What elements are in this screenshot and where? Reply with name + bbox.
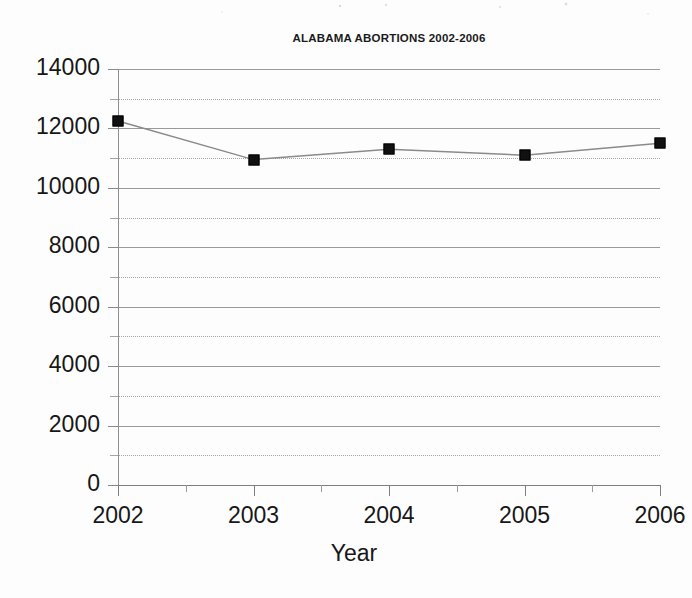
- y-axis-minor-tick: [110, 218, 118, 219]
- y-axis-major-tick: [108, 366, 118, 367]
- y-axis-minor-tick: [110, 277, 118, 278]
- gridline-minor: [118, 336, 660, 337]
- x-axis-major-tick: [254, 485, 255, 496]
- gridline-minor: [118, 99, 660, 100]
- y-axis-minor-tick: [110, 158, 118, 159]
- line-chart: ALABAMA ABORTIONS 2002-2006 020004000600…: [0, 0, 692, 598]
- x-axis-minor-tick: [457, 485, 458, 492]
- x-axis-minor-tick: [186, 485, 187, 492]
- x-axis-tick-label: 2003: [228, 502, 279, 529]
- x-axis-major-tick: [118, 485, 119, 496]
- y-axis-major-tick: [108, 485, 118, 486]
- data-point-marker: [655, 138, 666, 149]
- x-axis-major-tick: [389, 485, 390, 496]
- x-axis-major-tick: [660, 485, 661, 496]
- y-axis-major-tick: [108, 128, 118, 129]
- x-axis-minor-tick: [592, 485, 593, 492]
- y-axis-minor-tick: [110, 396, 118, 397]
- x-axis-tick-label: 2002: [92, 502, 143, 529]
- data-point-marker: [113, 116, 124, 127]
- y-axis-major-tick: [108, 426, 118, 427]
- y-axis-tick-label: 8000: [0, 232, 100, 259]
- y-axis-major-tick: [108, 188, 118, 189]
- y-axis-tick-label: 2000: [0, 411, 100, 438]
- x-axis-tick-label: 2005: [499, 502, 550, 529]
- gridline-minor: [118, 158, 660, 159]
- y-axis-line: [118, 69, 119, 489]
- y-axis-tick-label: 10000: [0, 173, 100, 200]
- gridline-major: [118, 307, 660, 308]
- y-axis-tick-label: 0: [0, 470, 100, 497]
- y-axis-tick-label: 14000: [0, 54, 100, 81]
- y-axis-major-tick: [108, 307, 118, 308]
- x-axis-major-tick: [525, 485, 526, 496]
- data-point-marker: [519, 150, 530, 161]
- gridline-minor: [118, 218, 660, 219]
- y-axis-minor-tick: [110, 455, 118, 456]
- x-axis-minor-tick: [321, 485, 322, 492]
- chart-title: ALABAMA ABORTIONS 2002-2006: [118, 32, 660, 44]
- gridline-major: [118, 366, 660, 367]
- y-axis-minor-tick: [110, 336, 118, 337]
- y-axis-minor-tick: [110, 99, 118, 100]
- y-axis-tick-label: 6000: [0, 292, 100, 319]
- x-axis-tick-label: 2006: [634, 502, 685, 529]
- y-axis-major-tick: [108, 69, 118, 70]
- y-axis-major-tick: [108, 247, 118, 248]
- gridline-major: [118, 69, 660, 70]
- x-axis-tick-label: 2004: [363, 502, 414, 529]
- gridline-minor: [118, 396, 660, 397]
- gridline-major: [118, 128, 660, 129]
- plot-area: [118, 69, 660, 485]
- x-axis-title: Year: [0, 540, 692, 567]
- data-point-marker: [384, 144, 395, 155]
- gridline-major: [118, 188, 660, 189]
- gridline-minor: [118, 455, 660, 456]
- data-point-marker: [248, 154, 259, 165]
- gridline-minor: [118, 277, 660, 278]
- y-axis-tick-label: 4000: [0, 351, 100, 378]
- x-axis-title-text: Year: [331, 540, 377, 566]
- gridline-major: [118, 426, 660, 427]
- y-axis-tick-label: 12000: [0, 113, 100, 140]
- gridline-major: [118, 247, 660, 248]
